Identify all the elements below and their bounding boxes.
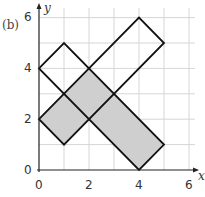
svg-text:2: 2 bbox=[85, 178, 93, 192]
part-label: (b) bbox=[2, 18, 19, 32]
svg-text:6: 6 bbox=[24, 10, 32, 24]
svg-text:4: 4 bbox=[24, 61, 32, 75]
y-tick-labels: 0 2 4 6 bbox=[24, 10, 32, 177]
svg-text:0: 0 bbox=[35, 178, 43, 192]
x-tick-labels: 0 2 4 6 bbox=[35, 178, 193, 192]
svg-text:0: 0 bbox=[24, 163, 32, 177]
coordinate-diagram: (b) y x 0 2 4 6 0 2 4 6 bbox=[0, 0, 205, 197]
x-axis-label: x bbox=[198, 169, 205, 183]
svg-text:6: 6 bbox=[185, 178, 193, 192]
svg-text:2: 2 bbox=[24, 112, 32, 126]
y-axis-label: y bbox=[43, 1, 51, 15]
svg-text:4: 4 bbox=[135, 178, 143, 192]
y-arrow-icon bbox=[37, 3, 42, 9]
